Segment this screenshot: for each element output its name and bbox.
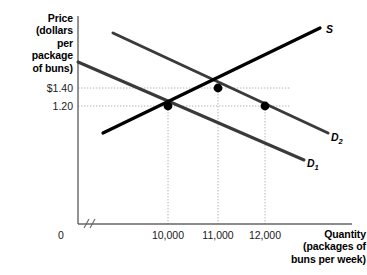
- x-axis-title: Quantity (packages of buns per week): [290, 228, 366, 265]
- y-axis-title-line-3: per: [2, 37, 73, 49]
- demand-curve-d2-label-text: D: [331, 131, 339, 143]
- origin-label: 0: [58, 229, 64, 241]
- y-tick-label-120: 1.20: [25, 100, 73, 112]
- y-axis-title-line-5: of buns): [2, 62, 73, 74]
- x-tick-label-10000: 10,000: [140, 229, 196, 241]
- demand-curve-d1-label-text: D: [307, 157, 315, 169]
- x-axis-title-line-1: Quantity: [290, 228, 366, 240]
- supply-demand-chart-figure: Price (dollars per package of buns) Quan…: [0, 0, 367, 275]
- demand-curve-d2: [113, 33, 328, 133]
- demand-curve-d2-label-sub: 2: [339, 137, 343, 146]
- x-axis-title-line-2: (packages of: [290, 240, 366, 252]
- point-quantity-demanded-old-price: [261, 102, 270, 111]
- y-axis-title-line-1: Price: [2, 12, 73, 24]
- demand-curve-d2-label: D2: [331, 131, 343, 147]
- point-new-equilibrium: [214, 84, 223, 93]
- point-initial-equilibrium: [164, 102, 173, 111]
- y-axis-title-line-4: package: [2, 49, 73, 61]
- demand-curve-d1-label-sub: 1: [315, 163, 319, 172]
- demand-curve-d1: [78, 62, 304, 160]
- x-axis-title-line-3: buns per week): [290, 253, 366, 265]
- y-axis-title: Price (dollars per package of buns): [2, 12, 73, 74]
- supply-curve-label: S: [326, 23, 333, 35]
- x-tick-label-12000: 12,000: [237, 229, 293, 241]
- y-axis-title-line-2: (dollars: [2, 24, 73, 36]
- y-tick-label-140: $1.40: [25, 82, 73, 94]
- demand-curve-d1-label: D1: [307, 157, 319, 173]
